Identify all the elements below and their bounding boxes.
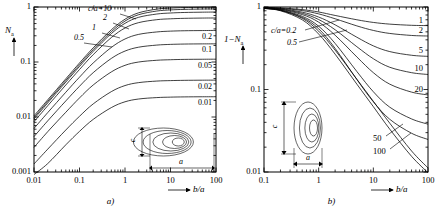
y-tick-label: 1 — [2, 1, 31, 11]
panel-a-curve-label: 1 — [92, 23, 96, 32]
panel-a-curve-label: 0.2 — [174, 32, 212, 41]
panel-b-inset — [281, 101, 323, 168]
curve — [34, 80, 216, 164]
panel-a-curve-label: 0.1 — [174, 45, 212, 54]
x-tick-label: 1 — [308, 175, 330, 185]
y-tick-label: 1 — [232, 1, 261, 11]
inset-contour — [305, 114, 319, 142]
y-tick-label: 0.01 — [2, 111, 31, 121]
x-tick-label: 10 — [160, 175, 182, 185]
x-tick-label: 0.1 — [253, 175, 275, 185]
panel-b-curve-label: 5 — [392, 45, 423, 55]
x-tick-label: 10 — [362, 175, 384, 185]
panel-a: Na b/a a) 0.010.111010010.10.010.001c/a=… — [0, 0, 221, 213]
x-tick-label: 100 — [417, 175, 439, 185]
inset-contour — [143, 131, 191, 154]
y-tick-label: 0.01 — [232, 166, 261, 176]
y-tick-label: 0.1 — [2, 56, 31, 66]
panel-a-curve-label: 0.5 — [74, 33, 84, 42]
panel-b-curve-label: 100 — [373, 146, 386, 156]
panel-a-curve-label: 0.02 — [174, 82, 212, 91]
panel-b: 1−Na b/a b) 0.111010010.10.01c/a=0.20.51… — [221, 0, 442, 213]
panel-a-curve-label: 2 — [103, 13, 107, 22]
panel-a-x-axis-label: b/a — [193, 184, 205, 194]
panel-b-curve-label: 1 — [392, 15, 423, 25]
inset-contour — [163, 136, 187, 149]
panel-a-inset-c-label: c — [128, 139, 137, 143]
x-tick-label: 0.01 — [23, 175, 45, 185]
y-tick-label: 0.001 — [2, 166, 31, 176]
panel-b-curve-label: 50 — [373, 133, 382, 143]
panel-b-curve-label: 0.5 — [287, 38, 297, 47]
panel-b-inset-a-label: a — [306, 153, 310, 162]
panel-b-curve-label: c/a=0.2 — [271, 26, 296, 35]
curve — [34, 97, 216, 175]
inset-contour — [310, 120, 318, 136]
panel-a-caption: a) — [0, 196, 221, 206]
y-tick-label: 0.1 — [232, 84, 261, 94]
panel-b-x-axis-label: b/a — [396, 184, 408, 194]
panel-b-caption: b) — [221, 196, 442, 206]
panel-b-curve-label: 2 — [392, 25, 423, 35]
panel-a-curve-label: c/a=10 — [88, 4, 111, 13]
panel-a-curve-label: 0.05 — [174, 61, 212, 70]
x-tick-label: 1 — [114, 175, 136, 185]
panel-a-curve-label: 0.01 — [174, 98, 212, 107]
panel-a-inset — [133, 127, 215, 172]
panel-b-curve-label: 10 — [392, 63, 423, 73]
panel-b-curve-label: 20 — [392, 84, 423, 94]
panel-a-inset-a-label: a — [179, 157, 183, 166]
x-tick-label: 0.1 — [69, 175, 91, 185]
panel-b-inset-c-label: c — [270, 125, 279, 129]
leader-line — [386, 124, 403, 136]
inset-contour — [172, 138, 184, 146]
